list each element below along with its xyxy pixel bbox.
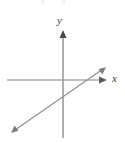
y-axis-arrowhead-icon — [60, 30, 67, 38]
x-axis-arrowhead-icon — [99, 77, 107, 84]
data-line-arrowhead-end-icon — [99, 67, 106, 74]
x-axis-label: x — [112, 73, 117, 84]
y-axis-label: y — [57, 15, 62, 26]
data-line-arrowhead-start-icon — [11, 126, 18, 133]
plot-svg — [0, 0, 125, 143]
coordinate-plane-figure: y x — [0, 0, 125, 143]
data-line — [15, 69, 103, 130]
